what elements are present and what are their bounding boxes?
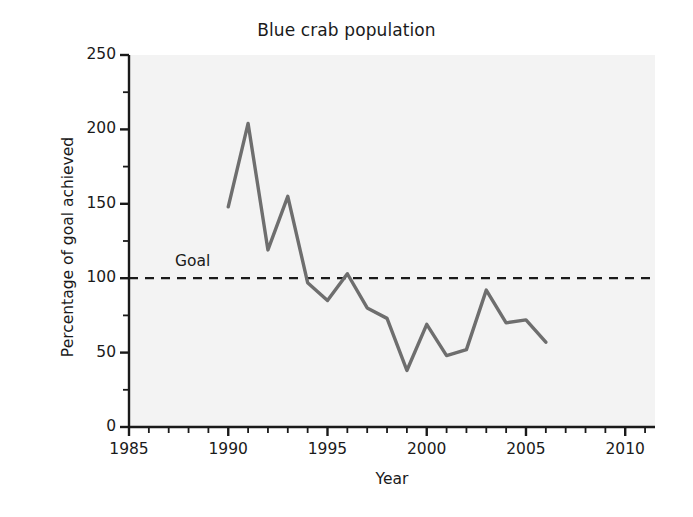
y-tick-label: 100: [56, 268, 116, 286]
x-axis-major-ticks: [129, 427, 625, 436]
y-tick-label: 50: [56, 343, 116, 361]
goal-annotation-label: Goal: [175, 252, 210, 270]
y-tick-label: 250: [56, 45, 116, 63]
y-tick-label: 200: [56, 119, 116, 137]
x-tick-label: 2000: [392, 440, 462, 458]
y-tick-label: 150: [56, 194, 116, 212]
y-tick-label: 0: [56, 417, 116, 435]
data-series-line: [228, 123, 546, 370]
chart-container: Blue crab population Percentage of goal …: [0, 0, 693, 517]
x-tick-label: 2010: [590, 440, 660, 458]
x-tick-label: 1990: [193, 440, 263, 458]
x-tick-label: 2005: [491, 440, 561, 458]
x-tick-label: 1985: [94, 440, 164, 458]
x-tick-label: 1995: [292, 440, 362, 458]
